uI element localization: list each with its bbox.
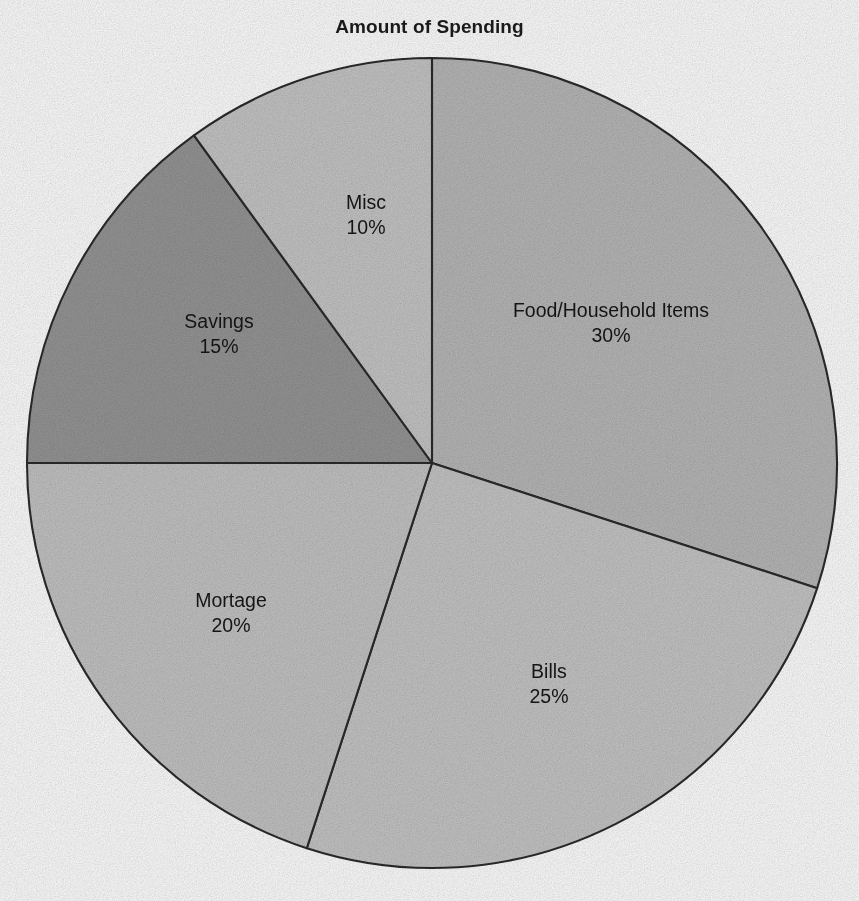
- pie-chart: Amount of Spending Food/Household Items3…: [0, 0, 859, 901]
- pie-graphic: [0, 0, 859, 901]
